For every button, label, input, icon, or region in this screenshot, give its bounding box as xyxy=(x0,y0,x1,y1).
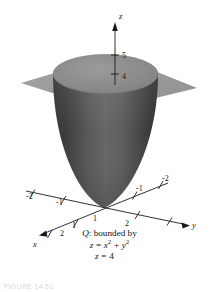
x-tick-label-neg2: -2 xyxy=(162,174,169,183)
y-tick-label-neg2: -2 xyxy=(26,192,33,201)
y-tick-label-1: 1 xyxy=(93,214,97,223)
equation1-term2-exponent: 2 xyxy=(126,237,129,244)
z-tick-label-4: 4 xyxy=(122,72,126,81)
caption-region-symbol: Q xyxy=(82,228,89,238)
x-tick-label-neg1: -1 xyxy=(136,184,143,193)
caption-bounded-by-text: : bounded by xyxy=(89,228,137,238)
equation2-rhs: 4 xyxy=(109,251,114,261)
caption-line-paraboloid-equation: z = x2 + y2 xyxy=(4,240,215,252)
paraboloid-top-cap xyxy=(53,55,158,94)
figure-number-label: FIGURE 14.51 xyxy=(4,283,54,290)
axis-label-z: z xyxy=(118,11,123,21)
equation1-equals: = xyxy=(93,240,103,250)
equation1-plus: + xyxy=(111,240,121,250)
y-tick-label-2: 2 xyxy=(125,219,129,228)
caption-line-plane-equation: z = 4 xyxy=(0,251,215,263)
z-tick-label-5: 5 xyxy=(122,51,126,60)
figure-caption: Q: bounded by z = x2 + y2 z = 4 xyxy=(0,228,215,263)
y-tick-label-neg1: -1 xyxy=(56,198,63,207)
equation2-equals: = xyxy=(99,251,109,261)
